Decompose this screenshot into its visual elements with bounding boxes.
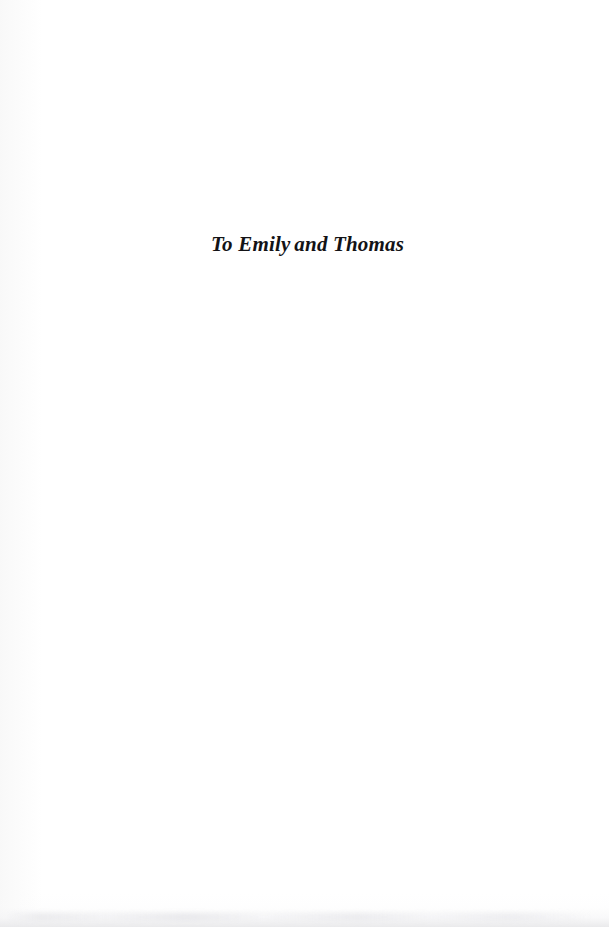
dedication-trailing: and Thomas xyxy=(289,232,404,256)
scan-edge-artifact xyxy=(0,893,609,927)
dedication-lead-in: To Emily xyxy=(211,232,290,256)
paper-tint-overlay xyxy=(0,0,609,927)
dedication-page: To Emily and Thomas xyxy=(0,0,609,927)
dedication-text: To Emily and Thomas xyxy=(211,231,404,257)
